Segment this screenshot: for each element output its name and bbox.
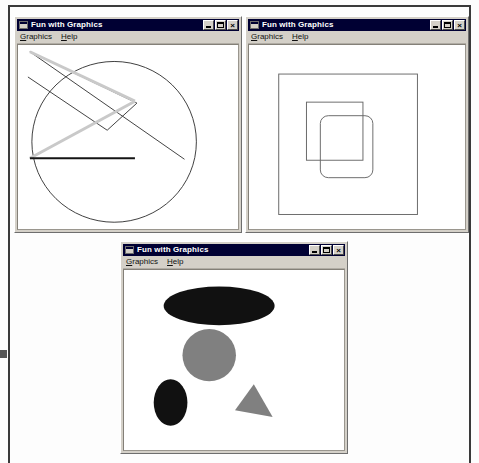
filled-shapes-shape-3 [235,384,273,417]
menu-item-help[interactable]: Help [61,31,77,43]
page-frame-right-border [469,5,471,463]
menu-item-graphics[interactable]: Graphics [251,31,283,43]
menu-item-help-rest: elp [298,32,309,41]
titlebar[interactable]: Fun with Graphics × [248,19,466,31]
minimize-button[interactable] [309,245,320,255]
lines-and-arc-shape-6 [30,101,135,158]
filled-shapes-shape-0 [164,286,275,325]
rectangles-svg [249,45,465,229]
menubar[interactable]: Graphics Help [123,256,345,269]
rectangles-shape-1 [306,102,362,160]
window-document-icon [19,21,28,29]
menubar[interactable]: Graphics Help [17,31,239,44]
close-button[interactable]: × [454,20,465,30]
filled-shapes-shape-1 [182,329,236,381]
menu-item-help-rest: elp [173,257,184,266]
menubar[interactable]: Graphics Help [248,31,466,44]
menu-item-graphics[interactable]: Graphics [126,256,158,268]
close-icon: × [228,21,237,29]
window-lines[interactable]: Fun with Graphics × Graphics Help [14,16,242,233]
window-document-icon [250,21,259,29]
rectangles-shape-0 [279,74,418,214]
titlebar[interactable]: Fun with Graphics × [17,19,239,31]
menu-item-graphics-rest: raphics [26,32,52,41]
window-filled-shapes[interactable]: Fun with Graphics × Graphics Help [120,241,348,454]
lines-and-arc-shape-0 [32,61,197,222]
lines-and-arc-shape-1 [30,52,185,159]
close-icon: × [455,21,464,29]
window-title: Fun with Graphics [137,244,309,256]
maximize-button[interactable] [442,20,453,30]
menu-item-help[interactable]: Help [167,256,183,268]
lines-and-arc-svg [18,45,238,229]
close-button[interactable]: × [227,20,238,30]
filled-shapes-svg [124,270,344,450]
window-controls[interactable]: × [309,245,344,255]
maximize-button[interactable] [215,20,226,30]
close-button[interactable]: × [333,245,344,255]
maximize-button[interactable] [321,245,332,255]
window-title: Fun with Graphics [262,19,430,31]
page-margin-mark [0,350,7,358]
filled-shapes-canvas [123,269,345,451]
window-document-icon [125,246,134,254]
minimize-button[interactable] [203,20,214,30]
lines-and-arc-shape-5 [30,52,135,101]
rectangles-shape-2 [320,116,373,178]
menu-item-graphics[interactable]: Graphics [20,31,52,43]
menu-item-help-rest: elp [67,32,78,41]
window-controls[interactable]: × [430,20,465,30]
menu-item-graphics-rest: raphics [132,257,158,266]
window-controls[interactable]: × [203,20,238,30]
titlebar[interactable]: Fun with Graphics × [123,244,345,256]
rectangles-canvas [248,44,466,230]
page-frame-top-border [8,5,471,7]
minimize-button[interactable] [430,20,441,30]
lines-and-arc-canvas [17,44,239,230]
window-title: Fun with Graphics [31,19,203,31]
page-frame-left-border [8,5,10,463]
filled-shapes-shape-2 [154,379,188,425]
menu-item-graphics-rest: raphics [257,32,283,41]
window-rectangles[interactable]: Fun with Graphics × Graphics Help [245,16,469,233]
menu-item-help[interactable]: Help [292,31,308,43]
close-icon: × [334,246,343,254]
